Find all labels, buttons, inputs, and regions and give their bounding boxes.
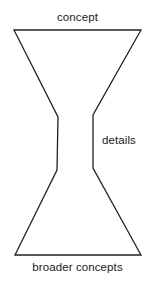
- label-details: details: [102, 134, 136, 147]
- label-broader-concepts: broader concepts: [0, 261, 155, 274]
- hourglass-diagram: concept details broader concepts: [0, 0, 155, 286]
- label-concept: concept: [0, 11, 155, 24]
